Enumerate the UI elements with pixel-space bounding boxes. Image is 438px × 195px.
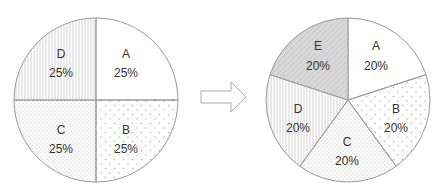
pie-chart-before: A 25% B 25% C 25% D 25%: [14, 18, 178, 182]
right-arrow-icon: [201, 82, 246, 112]
slice-c-label: C: [343, 135, 352, 149]
slice-b-value: 25%: [114, 142, 138, 156]
slice-a-label: A: [372, 39, 380, 53]
slice-c: [14, 100, 96, 182]
slice-d-value: 20%: [286, 121, 310, 135]
slice-e-label: E: [314, 39, 322, 53]
slice-d-label: D: [57, 47, 66, 61]
slice-a-value: 25%: [114, 66, 138, 80]
slice-c-value: 25%: [49, 142, 73, 156]
pie-chart-after: A 20% B 20% C 20% D 20% E 20%: [266, 18, 430, 182]
slice-b-value: 20%: [384, 121, 408, 135]
slice-d: [14, 18, 96, 100]
slice-b: [96, 100, 178, 182]
slice-b-label: B: [122, 123, 130, 137]
slice-c-label: C: [57, 123, 66, 137]
slice-d-label: D: [294, 102, 303, 116]
slice-d-value: 25%: [49, 66, 73, 80]
slice-a-value: 20%: [364, 59, 388, 73]
slice-a-label: A: [122, 47, 130, 61]
slice-c-value: 20%: [335, 154, 359, 168]
slice-e-value: 20%: [306, 59, 330, 73]
slice-a: [96, 18, 178, 100]
pie-comparison-figure: A 25% B 25% C 25% D 25% A 20% B 20% C 20…: [0, 0, 438, 195]
slice-b-label: B: [392, 102, 400, 116]
